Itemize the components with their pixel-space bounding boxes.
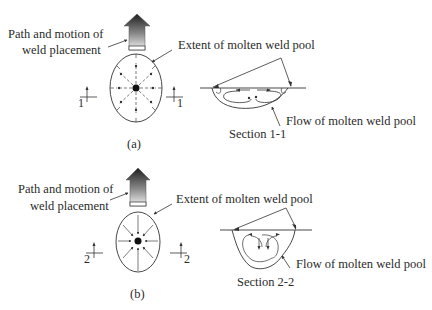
panel-a: Path and motion of weld placement Extent… xyxy=(8,14,416,151)
path-label-line1: Path and motion of xyxy=(18,182,114,196)
path-label-line2: weld placement xyxy=(30,199,109,213)
section-label: Section 1-1 xyxy=(229,127,286,141)
section-marker-right-label: 1 xyxy=(177,96,183,110)
section-label: Section 2-2 xyxy=(237,275,294,289)
weld-motion-arrow-icon xyxy=(124,14,150,50)
section-1-1-cross-section xyxy=(200,58,306,108)
extent-leader-line xyxy=(152,50,172,62)
extent-label: Extent of molten weld pool xyxy=(176,192,313,206)
weld-pool-diagram: Path and motion of weld placement Extent… xyxy=(0,0,432,310)
weld-pool-top-view xyxy=(116,212,160,272)
weld-motion-arrow-icon xyxy=(126,168,150,206)
panel-b: Path and motion of weld placement Extent… xyxy=(18,168,426,301)
extent-leader-line xyxy=(154,204,172,214)
caption-a: (a) xyxy=(127,137,141,151)
path-label-line2: weld placement xyxy=(22,43,101,57)
section-marker-left-label: 1 xyxy=(78,96,84,110)
section-marker-left-label: 2 xyxy=(84,252,90,266)
flow-label: Flow of molten weld pool xyxy=(296,257,426,271)
weld-pool-top-view xyxy=(110,54,162,122)
section-marker-right-label: 2 xyxy=(184,252,190,266)
caption-b: (b) xyxy=(130,287,145,301)
path-leader-line xyxy=(108,40,127,47)
flow-leader-line xyxy=(272,107,280,126)
flow-label: Flow of molten weld pool xyxy=(286,114,416,128)
flow-leader-line xyxy=(282,256,290,268)
path-label-line1: Path and motion of xyxy=(8,27,104,41)
extent-label: Extent of molten weld pool xyxy=(178,38,315,52)
